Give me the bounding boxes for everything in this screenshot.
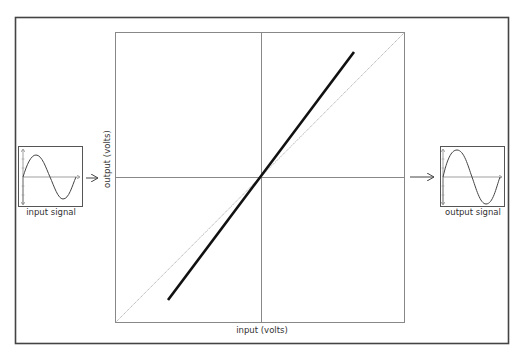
x-axis-label: input (volts) bbox=[215, 325, 309, 335]
transfer-plot bbox=[116, 33, 405, 323]
output-signal-label: output signal bbox=[440, 207, 506, 217]
input-signal-label: input signal bbox=[20, 207, 82, 217]
output-signal-panel bbox=[441, 147, 505, 207]
amplifier-transfer-diagram bbox=[0, 0, 522, 357]
input-signal-panel bbox=[19, 147, 83, 207]
input-signal-box bbox=[19, 147, 83, 207]
y-axis-label: output (volts) bbox=[102, 112, 112, 206]
